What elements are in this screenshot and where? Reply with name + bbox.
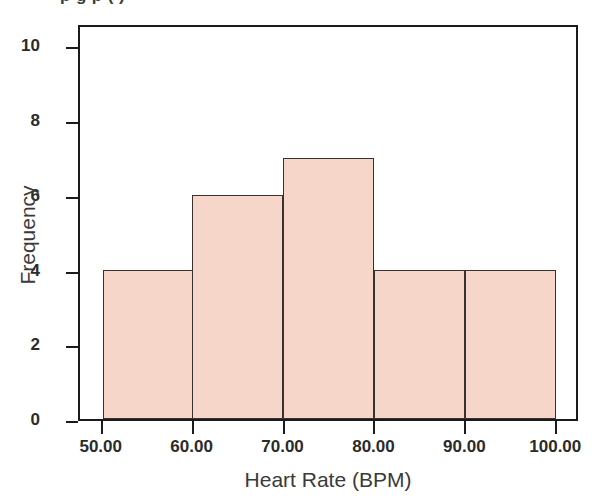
x-axis-tick-label: 70.00: [238, 437, 328, 457]
y-axis-tick: [66, 272, 78, 274]
y-axis-tick: [66, 421, 78, 423]
y-axis-tick: [66, 346, 78, 348]
x-axis-tick-label: 50.00: [56, 437, 146, 457]
x-axis-tick-label: 60.00: [147, 437, 237, 457]
histogram-bar: [283, 158, 374, 420]
y-axis-tick: [66, 47, 78, 49]
x-axis-tick: [464, 421, 466, 434]
histogram-figure: 0246810 50.0060.0070.0080.0090.00100.00 …: [0, 0, 602, 503]
y-axis-tick: [66, 197, 78, 199]
x-axis-tick: [283, 421, 285, 434]
histogram-bar: [374, 270, 465, 419]
histogram-bar: [465, 270, 556, 419]
x-axis-tick: [555, 421, 557, 434]
x-axis-tick: [373, 421, 375, 434]
histogram-bar: [103, 270, 194, 419]
x-axis-title: Heart Rate (BPM): [78, 468, 578, 492]
x-axis-tick-label: 100.00: [510, 437, 600, 457]
y-axis-tick-label: 10: [0, 36, 40, 56]
x-axis-tick-label: 90.00: [419, 437, 509, 457]
y-axis-tick: [66, 122, 78, 124]
x-axis-tick-label: 80.00: [328, 437, 418, 457]
x-axis-tick: [192, 421, 194, 434]
plot-area: [80, 27, 576, 419]
y-axis-tick-label: 0: [0, 410, 40, 430]
plot-frame: [78, 25, 578, 421]
x-axis-tick: [101, 421, 103, 434]
y-axis-title: Frequency: [16, 115, 40, 355]
histogram-bar: [192, 195, 283, 419]
